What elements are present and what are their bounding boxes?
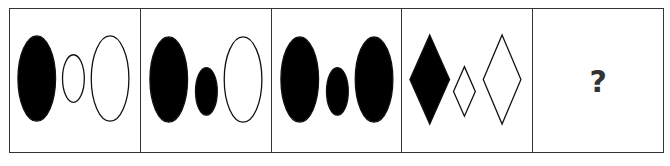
- filled-diamond-icon: [410, 35, 450, 124]
- hollow-ellipse-icon: [224, 37, 262, 122]
- filled-ellipse-icon: [18, 36, 56, 121]
- question-mark: ?: [533, 63, 663, 98]
- filled-ellipse-icon: [281, 37, 319, 122]
- panel-1: [10, 9, 141, 152]
- shapes-1: [10, 9, 140, 152]
- hollow-diamond-icon: [484, 35, 522, 124]
- panel-2: [141, 9, 272, 152]
- shapes-3: [272, 9, 402, 152]
- filled-ellipse-icon: [326, 68, 348, 116]
- shapes-2: [141, 9, 271, 152]
- panel-3: [272, 9, 403, 152]
- shapes-4: [402, 9, 532, 152]
- panel-4: [402, 9, 533, 152]
- puzzle-strip: ?: [9, 8, 664, 153]
- hollow-ellipse-icon: [91, 36, 129, 121]
- filled-ellipse-icon: [150, 37, 188, 122]
- panel-5-answer[interactable]: ?: [533, 9, 663, 152]
- filled-ellipse-icon: [195, 68, 217, 116]
- hollow-diamond-icon: [454, 67, 476, 117]
- filled-ellipse-icon: [355, 37, 393, 122]
- hollow-ellipse-icon: [63, 55, 85, 103]
